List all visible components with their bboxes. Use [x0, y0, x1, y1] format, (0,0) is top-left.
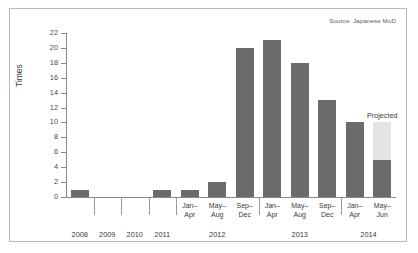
bar-projected [373, 122, 391, 159]
projected-annotation: Projected [357, 111, 407, 120]
y-tick-label: 20 [50, 44, 58, 51]
group-separator [149, 198, 150, 215]
y-tick-mark [61, 152, 66, 153]
bar [71, 190, 89, 197]
bar [346, 122, 364, 197]
bar [181, 190, 199, 197]
group-separator [94, 198, 95, 215]
y-tick-label: 22 [50, 29, 58, 36]
bar [373, 160, 391, 197]
y-tick-mark [61, 48, 66, 49]
bar [318, 100, 336, 197]
year-label: 2013 [278, 230, 322, 239]
y-tick-label: 16 [50, 74, 58, 81]
group-separator [121, 198, 122, 215]
y-tick-mark [61, 63, 66, 64]
y-tick-label: 2 [54, 178, 58, 185]
year-label: 2012 [195, 230, 239, 239]
y-tick-mark [61, 122, 66, 123]
period-label-line: May– [362, 202, 402, 211]
y-tick-label: 18 [50, 59, 58, 66]
y-tick-mark [61, 137, 66, 138]
y-tick-label: 4 [54, 163, 58, 170]
y-tick-mark [61, 108, 66, 109]
bar [263, 40, 281, 197]
bar [236, 48, 254, 197]
chart-figure: Source: Japanese MoD Times 0246810121416… [9, 8, 407, 242]
year-label: 2011 [140, 230, 184, 239]
y-tick-label: 10 [50, 119, 58, 126]
bar [208, 182, 226, 197]
y-tick-mark [61, 93, 66, 94]
y-tick-label: 8 [54, 134, 58, 141]
y-tick-mark [61, 33, 66, 34]
y-tick-label: 6 [54, 149, 58, 156]
y-tick-mark [61, 78, 66, 79]
y-axis-line [66, 33, 67, 198]
period-label-line: Jun [362, 211, 402, 220]
plot-area: 0246810121416182022 Projected [66, 33, 396, 198]
year-label: 2014 [347, 230, 391, 239]
y-tick-mark [61, 167, 66, 168]
y-axis-title: Times [14, 64, 24, 87]
bar [291, 63, 309, 197]
x-axis-zone: Jan–AprMay–AugSep–DecJan–AprMay–AugSep–D… [66, 198, 396, 248]
y-tick-label: 14 [50, 89, 58, 96]
source-note: Source: Japanese MoD [329, 17, 396, 24]
bar [153, 190, 171, 197]
y-tick-mark [61, 182, 66, 183]
y-tick-label: 0 [54, 193, 58, 200]
y-tick-label: 12 [50, 104, 58, 111]
period-label: May–Jun [362, 202, 402, 219]
